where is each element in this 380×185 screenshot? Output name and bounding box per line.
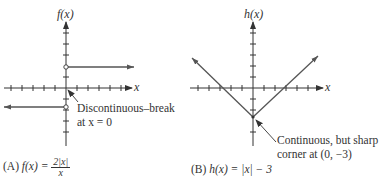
caption-prefix: (B) (191, 163, 206, 175)
caption-b: (B) h(x) = |x| − 3 (191, 163, 272, 175)
y-axis-label: f(x) (57, 7, 74, 22)
caption-fraction: 2|x| x (51, 157, 70, 178)
annotation-text: Discontinuous–break at x = 0 (77, 101, 175, 129)
annotation-line-1: Discontinuous–break (77, 101, 175, 115)
annotation-arrow (256, 120, 276, 142)
vertex-point (251, 115, 254, 118)
graph-panel-a: f(x) x Discontinuous–break at x = 0 (A) … (0, 0, 190, 185)
open-circle-upper (64, 65, 68, 69)
caption-a: (A) f(x) = 2|x| x (3, 157, 70, 178)
fraction-denominator: x (51, 168, 70, 178)
open-circle-lower (64, 105, 68, 109)
graph-panel-b: h(x) x Continuous, but sharp corner at (… (190, 0, 380, 185)
y-axis-label: h(x) (244, 7, 263, 22)
annotation-line-2: at x = 0 (77, 115, 175, 129)
x-axis-label: x (134, 80, 139, 95)
x-axis-label: x (325, 80, 330, 95)
caption-prefix: (A) (3, 160, 19, 172)
caption-equation: h(x) = |x| − 3 (209, 163, 272, 175)
annotation-line-2: corner at (0, −3) (277, 147, 378, 161)
annotation-line-1: Continuous, but sharp (277, 133, 378, 147)
annotation-text: Continuous, but sharp corner at (0, −3) (277, 133, 378, 161)
caption-lhs: f(x) = (22, 160, 49, 172)
